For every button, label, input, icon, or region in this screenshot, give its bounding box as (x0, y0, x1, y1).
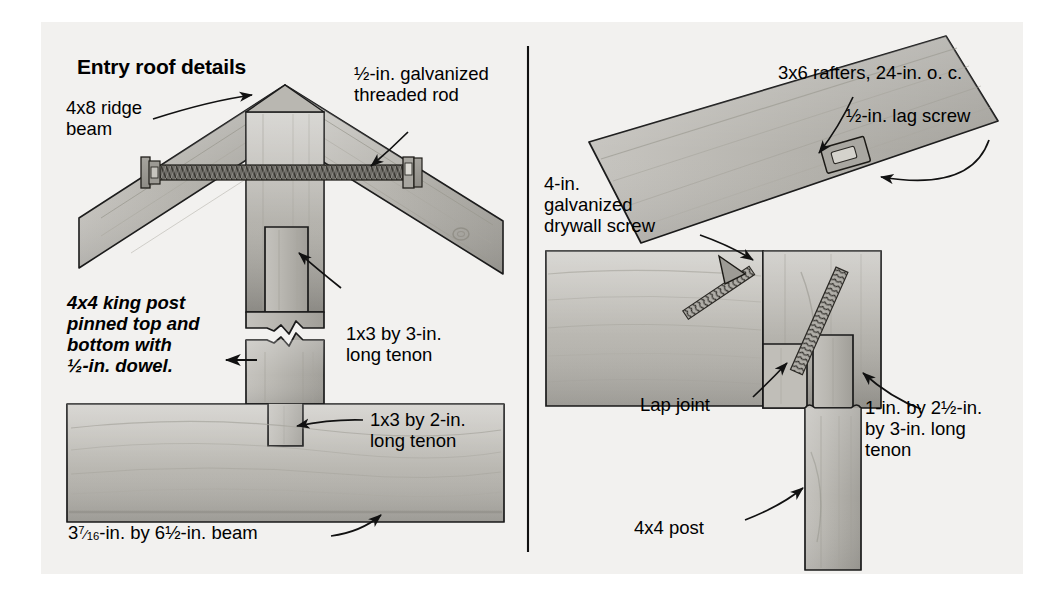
ridge-peak (246, 85, 324, 112)
right-tenon (813, 335, 853, 408)
label-lower-tenon: 1x3 by 2-in. long tenon (370, 409, 466, 451)
beam-size-whole: 3 (68, 522, 78, 543)
rod-washer-right (403, 157, 422, 188)
page-title: Entry roof details (77, 55, 246, 79)
upper-tenon (265, 227, 308, 312)
label-post: 4x4 post (634, 517, 704, 538)
label-lag-screw: ½-in. lag screw (846, 105, 970, 126)
king-post-upper (246, 312, 324, 334)
illustration-panel: Entry roof details 4x8 ridge beam ½-in. … (41, 22, 1023, 574)
label-right-tenon: 1-in. by 2½-in. by 3-in. long tenon (865, 397, 982, 460)
label-rafters: 3x6 rafters, 24-in. o. c. (778, 62, 962, 83)
beam-size-rest: -in. by 6½-in. beam (99, 522, 257, 543)
king-post-lower (246, 333, 324, 404)
label-king-post: 4x4 king post pinned top and bottom with… (67, 292, 200, 376)
fraction-denominator: 16 (87, 530, 99, 542)
label-ridge-beam: 4x8 ridge beam (66, 97, 142, 139)
label-drywall-screw: 4-in. galvanized drywall screw (544, 173, 655, 236)
label-lap-joint: Lap joint (640, 394, 710, 415)
beam-size-fraction: 7⁄16 (78, 524, 99, 542)
label-beam-size: 37⁄16-in. by 6½-in. beam (68, 522, 258, 543)
rod-washer-left (141, 157, 160, 188)
illustration-page: Entry roof details 4x8 ridge beam ½-in. … (0, 0, 1064, 598)
label-threaded-rod: ½-in. galvanized threaded rod (354, 63, 489, 105)
label-upper-tenon: 1x3 by 3-in. long tenon (346, 323, 442, 365)
threaded-rod (157, 165, 403, 180)
leader-post (745, 488, 803, 520)
post-4x4 (805, 405, 861, 570)
fraction-numerator: 7 (78, 524, 84, 536)
